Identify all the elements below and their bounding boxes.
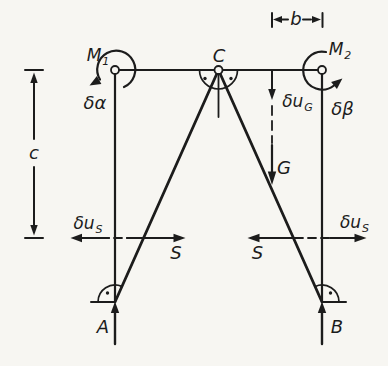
label-dim-c: c [29,144,39,162]
support-b-angle-dot [329,291,332,294]
label-dim-b: b [290,10,301,28]
delta-u-g-arrow-head [268,89,276,100]
hinge-circle-m2 [318,66,326,74]
label-reaction-b: B [331,318,343,336]
hinge-circle-c [215,66,223,74]
label-delta-alpha: δα [84,94,107,112]
label-delta-u-g-sub: G [304,101,313,114]
label-delta-u-s-right: δuS [340,214,369,231]
angle-dot-c-left [203,77,206,80]
label-moment-m1-sub: 1 [102,55,109,68]
label-s-left: S [170,244,181,262]
support-a-angle-dot [106,291,109,294]
label-moment-m2-base: M [329,39,344,59]
label-load-g: G [277,159,291,177]
label-delta-u-g: δuG [282,93,313,110]
dim-b-arrow-right-head [312,16,321,23]
label-moment-m2: M2 [329,41,352,58]
label-moment-m1: M1 [87,47,110,64]
dim-b-arrow-left-head [273,16,282,23]
reaction-a-arrow-head [111,302,119,314]
label-moment-m2-sub: 2 [344,49,351,62]
label-delta-u-s-right-sub: S [362,222,369,235]
label-reaction-a: A [97,318,109,336]
label-delta-u-s-right-base: δu [340,212,361,232]
label-delta-u-s-left-base: δu [73,213,94,233]
label-delta-u-s-left: δuS [73,215,102,232]
reaction-b-arrow-head [318,302,326,314]
label-delta-beta: δβ [331,100,354,118]
mechanics-frame-diagram: M1 C M2 δα δβ δuG G c b δuS δuS S S A B [0,0,388,366]
delta-u-s-right-arrow-head [355,234,367,242]
label-moment-m1-base: M [87,45,102,65]
label-joint-c: C [213,47,226,65]
delta-u-s-left-arrow-head [71,234,83,242]
dim-c-arrow-down-head [30,225,37,236]
label-delta-u-g-base: δu [282,91,303,111]
angle-dot-c-right [229,77,232,80]
label-delta-u-s-left-sub: S [96,223,103,236]
label-s-right: S [252,244,263,262]
strut-a-c [115,70,219,302]
hinge-circle-m1 [111,66,119,74]
